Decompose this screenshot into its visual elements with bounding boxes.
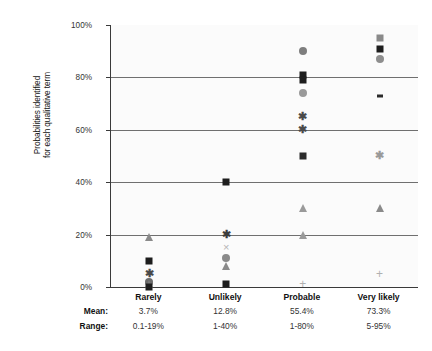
stats-cell: 55.4% [290, 306, 314, 316]
y-axis-tick-label: 60% [52, 125, 92, 134]
data-point-triangle [145, 233, 153, 241]
x-axis-category-labels: RarelyUnlikelyProbableVery likely [110, 292, 417, 306]
y-axis-tick [106, 130, 111, 131]
data-point-asterisk: ✱ [298, 111, 307, 122]
data-point-asterisk: ✱ [222, 229, 231, 240]
gridline [111, 235, 418, 236]
chart-figure: Probabilities identified for each qualit… [0, 0, 432, 351]
y-axis-tick-label: 0% [52, 283, 92, 292]
gridline [111, 77, 418, 78]
stats-row-label: Range: [40, 321, 108, 331]
y-axis-title-line-1: Probabilities identified [32, 76, 43, 154]
stats-row-label: Mean: [40, 306, 108, 316]
data-point-plus: + [299, 278, 306, 290]
stats-cell: 3.7% [139, 306, 158, 316]
y-axis-tick [106, 235, 111, 236]
y-axis-tick [106, 182, 111, 183]
data-point-square [223, 281, 230, 288]
data-point-triangle [376, 204, 384, 212]
data-point-asterisk: ✱ [298, 124, 307, 135]
x-axis-label-unlikely: Unlikely [209, 292, 242, 302]
y-axis-tick-label: 80% [52, 73, 92, 82]
data-point-square [299, 153, 306, 160]
data-point-circle [376, 55, 384, 63]
gridline [111, 130, 418, 131]
y-axis-title-line-2: for each qualitative term [42, 72, 53, 158]
y-axis-tick [106, 77, 111, 78]
data-point-triangle [299, 231, 307, 239]
data-point-square [376, 45, 383, 52]
data-point-square [146, 283, 153, 290]
y-axis-tick-label: 100% [52, 21, 92, 30]
stats-table: Mean:3.7%12.8%55.4%73.3%Range:0.1-19%1-4… [0, 306, 432, 342]
plot-area: ✱✱×✱✱+✱+ [110, 25, 418, 288]
stats-cell: 73.3% [367, 306, 391, 316]
data-point-circle [222, 254, 230, 262]
data-point-plus: + [376, 268, 383, 280]
data-point-square [376, 35, 383, 42]
x-axis-label-very-likely: Very likely [358, 292, 400, 302]
x-axis-label-rarely: Rarely [135, 292, 161, 302]
data-point-circle [299, 47, 307, 55]
x-axis-label-probable: Probable [283, 292, 320, 302]
data-point-circle [299, 89, 307, 97]
data-point-triangle [222, 262, 230, 270]
data-point-square [146, 257, 153, 264]
data-point-square [223, 179, 230, 186]
y-axis-tick-label: 40% [52, 178, 92, 187]
data-point-dash [377, 94, 383, 97]
stats-cell: 1-80% [290, 321, 314, 331]
y-axis-tick [106, 287, 111, 288]
data-point-triangle [299, 204, 307, 212]
stats-cell: 12.8% [213, 306, 237, 316]
y-axis-tick-labels: 0%20%40%60%80%100% [52, 0, 92, 351]
gridline [111, 182, 418, 183]
stats-cell: 5-95% [367, 321, 391, 331]
y-axis-tick [106, 25, 111, 26]
stats-cell: 0.1-19% [133, 321, 164, 331]
data-point-asterisk: ✱ [375, 150, 384, 161]
data-point-square [299, 77, 306, 84]
data-point-cross-x: × [223, 242, 229, 253]
y-axis-tick-label: 20% [52, 230, 92, 239]
stats-cell: 1-40% [213, 321, 237, 331]
